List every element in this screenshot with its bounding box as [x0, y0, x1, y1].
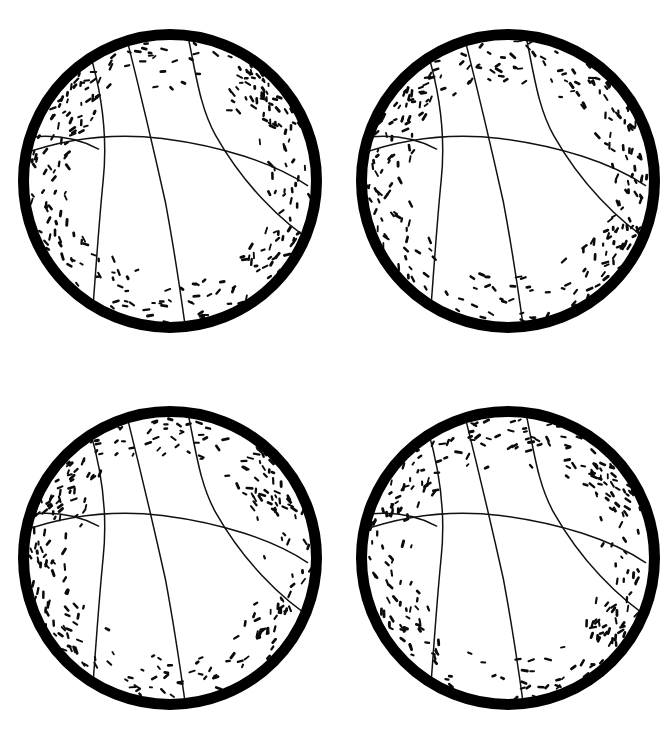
stipple-mark — [283, 194, 285, 196]
stipple-mark — [254, 603, 257, 605]
stipple-mark — [521, 277, 526, 279]
stipple-mark — [378, 199, 379, 202]
stipple-mark — [406, 104, 407, 107]
stipple-mark — [623, 489, 625, 492]
stipple-mark — [602, 262, 608, 264]
stipple-mark — [94, 111, 95, 113]
stipple-mark — [575, 82, 579, 84]
stipple-mark — [420, 92, 424, 93]
stipple-mark — [238, 661, 243, 662]
stipple-mark — [428, 483, 430, 484]
stipple-mark — [141, 670, 143, 671]
stipple-mark — [115, 441, 117, 443]
stipple-mark — [616, 618, 617, 623]
stipple-mark — [571, 91, 574, 92]
stipple-mark — [68, 487, 74, 489]
stipple-mark — [271, 647, 273, 650]
stipple-mark — [239, 67, 240, 69]
stipple-mark — [96, 443, 101, 444]
stipple-mark — [67, 629, 71, 631]
stipple-mark — [271, 262, 273, 265]
stipple-mark — [70, 491, 71, 493]
stipple-mark — [252, 78, 255, 79]
stipple-mark — [91, 441, 93, 443]
stipple-mark — [611, 466, 613, 467]
stipple-mark — [372, 164, 373, 169]
ball-bottom-right — [356, 406, 660, 710]
stipple-mark — [368, 185, 369, 188]
stipple-mark — [514, 67, 516, 68]
stipple-mark — [623, 513, 624, 517]
stipple-mark — [382, 546, 383, 549]
stipple-mark — [79, 73, 80, 75]
stipple-mark — [496, 435, 500, 437]
stipple-mark — [133, 454, 134, 456]
stipple-mark — [409, 220, 410, 226]
stipple-mark — [44, 530, 45, 535]
stipple-mark — [407, 88, 408, 93]
stipple-mark — [42, 190, 44, 193]
stipple-mark — [605, 632, 607, 635]
stipple-mark — [629, 592, 631, 594]
stipple-mark — [97, 96, 98, 98]
stipple-mark — [591, 81, 592, 83]
stipple-mark — [605, 143, 608, 144]
stipple-mark — [54, 170, 55, 172]
stipple-mark — [246, 97, 247, 99]
stipple-mark — [257, 631, 258, 636]
stipple-mark — [49, 506, 51, 508]
basketball-sheet — [0, 0, 672, 740]
stipple-mark — [530, 290, 532, 291]
stipple-mark — [146, 442, 151, 444]
stipple-mark — [499, 76, 504, 77]
stipple-mark — [196, 662, 198, 663]
stipple-mark — [46, 502, 49, 504]
stipple-mark — [214, 675, 217, 676]
stipple-mark — [135, 51, 140, 52]
stipple-mark — [289, 139, 290, 141]
stipple-mark — [621, 244, 623, 248]
stipple-mark — [92, 475, 94, 478]
stipple-mark — [36, 158, 37, 162]
stipple-mark — [538, 444, 542, 445]
stipple-mark — [282, 599, 283, 601]
stipple-mark — [485, 467, 488, 468]
stipple-mark — [196, 284, 199, 285]
stipple-mark — [635, 166, 636, 170]
stipple-mark — [59, 104, 60, 106]
stipple-mark — [264, 556, 265, 558]
stipple-mark — [396, 496, 400, 498]
stipple-mark — [526, 450, 531, 451]
stipple-mark — [609, 118, 612, 120]
stipple-mark — [488, 52, 490, 53]
stipple-mark — [279, 608, 280, 612]
stipple-mark — [50, 498, 51, 501]
stipple-mark — [200, 315, 202, 316]
stipple-mark — [168, 419, 172, 420]
stipple-mark — [58, 123, 59, 129]
stipple-mark — [451, 438, 453, 440]
stipple-mark — [209, 668, 211, 671]
stipple-mark — [276, 503, 278, 506]
stipple-mark — [67, 92, 68, 95]
stipple-mark — [424, 486, 426, 491]
stipple-mark — [84, 126, 88, 127]
stipple-mark — [54, 517, 55, 519]
stipple-mark — [444, 457, 447, 458]
stipple-mark — [573, 70, 575, 74]
stipple-mark — [284, 144, 285, 149]
stipple-mark — [402, 117, 404, 122]
stipple-mark — [561, 647, 565, 648]
stipple-mark — [165, 672, 168, 673]
stipple-mark — [275, 191, 276, 193]
stipple-mark — [555, 52, 557, 53]
stipple-mark — [429, 77, 434, 78]
stipple-mark — [628, 181, 629, 185]
stipple-mark — [417, 591, 419, 593]
stipple-mark — [390, 183, 392, 186]
stipple-mark — [106, 628, 109, 630]
stipple-mark — [56, 480, 59, 481]
stipple-mark — [130, 448, 134, 449]
stipple-mark — [526, 438, 529, 439]
stipple-mark — [242, 665, 243, 668]
